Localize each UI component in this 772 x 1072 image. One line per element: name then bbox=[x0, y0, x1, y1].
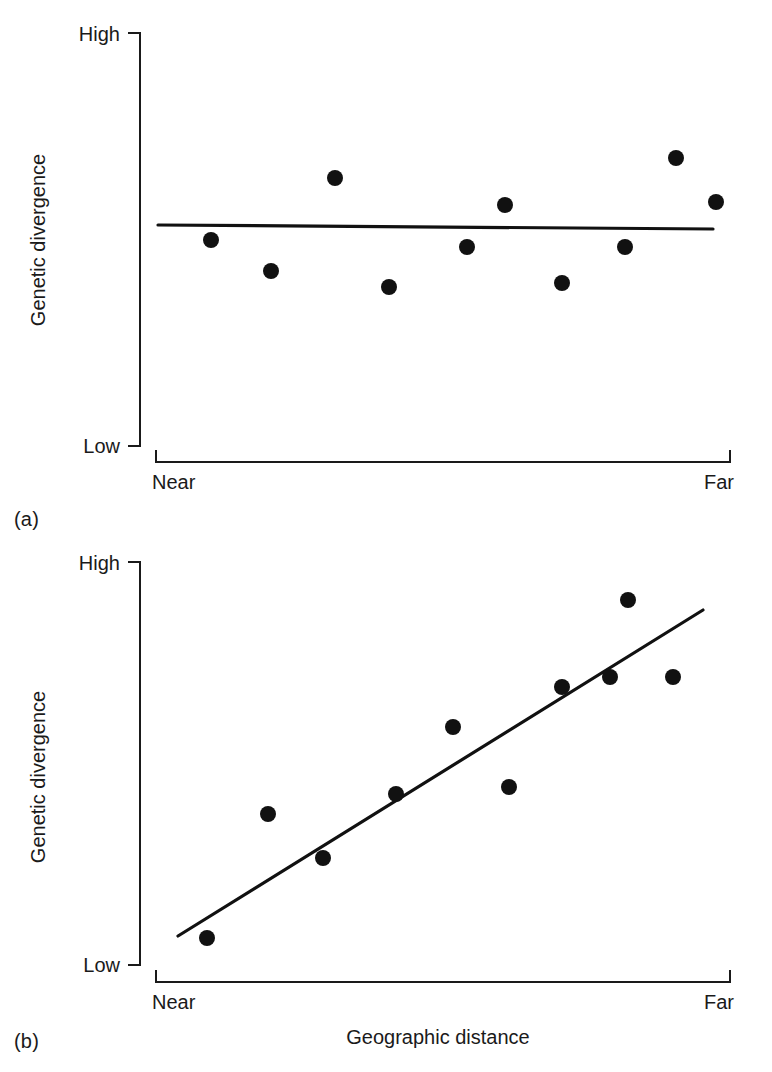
panel-b-x-tick-label-near: Near bbox=[152, 991, 196, 1013]
panel-b-tag: (b) bbox=[14, 1030, 39, 1053]
panel-a-trend-line bbox=[158, 225, 713, 229]
panel-b-y-axis-title: Genetic divergence bbox=[27, 691, 49, 863]
panel-b-datapoints bbox=[199, 592, 681, 946]
data-point bbox=[315, 850, 331, 866]
panel-a-datapoints bbox=[203, 150, 724, 295]
panel-b-chart: Genetic divergence High Low Near Far Geo… bbox=[0, 532, 772, 1072]
data-point bbox=[260, 806, 276, 822]
panel-a-x-tick-label-near: Near bbox=[152, 471, 196, 493]
data-point bbox=[602, 669, 618, 685]
data-point bbox=[445, 719, 461, 735]
data-point bbox=[263, 263, 279, 279]
panel-b-trend-line bbox=[178, 610, 703, 936]
data-point bbox=[388, 786, 404, 802]
data-point bbox=[554, 275, 570, 291]
data-point bbox=[708, 194, 724, 210]
panel-b-x-tick-label-far: Far bbox=[704, 991, 734, 1013]
data-point bbox=[203, 232, 219, 248]
data-point bbox=[665, 669, 681, 685]
panel-a-tag: (a) bbox=[14, 508, 39, 531]
data-point bbox=[459, 239, 475, 255]
data-point bbox=[497, 197, 513, 213]
panel-a-x-tick-label-far: Far bbox=[704, 471, 734, 493]
data-point bbox=[501, 779, 517, 795]
data-point bbox=[620, 592, 636, 608]
data-point bbox=[381, 279, 397, 295]
panel-b-y-tick-label-low: Low bbox=[83, 954, 120, 976]
data-point bbox=[199, 930, 215, 946]
data-point bbox=[617, 239, 633, 255]
panel-a-y-tick-label-high: High bbox=[79, 23, 120, 45]
data-point bbox=[327, 170, 343, 186]
panel-a-chart: Genetic divergence High Low Near Far bbox=[0, 0, 772, 532]
panel-b-y-tick-label-high: High bbox=[79, 552, 120, 574]
data-point bbox=[668, 150, 684, 166]
isolation-by-distance-figure: Genetic divergence High Low Near Far bbox=[0, 0, 772, 1072]
panel-a-y-axis-title: Genetic divergence bbox=[27, 154, 49, 326]
shared-x-axis-title: Geographic distance bbox=[346, 1026, 529, 1048]
panel-a-y-tick-label-low: Low bbox=[83, 435, 120, 457]
data-point bbox=[554, 679, 570, 695]
